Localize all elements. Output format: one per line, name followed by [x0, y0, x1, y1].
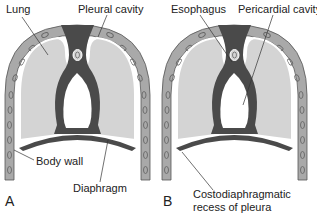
- leader-diaphragm: [100, 140, 108, 182]
- label-costodiaphragmatic-line1: Costodiaphragmatic: [193, 188, 291, 200]
- label-diaphragm: Diaphragm: [73, 182, 127, 194]
- leader-costodiaphragmatic-recess: [182, 152, 213, 190]
- panel-b-thorax: [162, 25, 307, 180]
- thoracic-cavity-diagram: [0, 0, 317, 217]
- label-esophagus: Esophagus: [171, 3, 226, 15]
- panel-letter-a: A: [5, 193, 14, 209]
- label-pleural-cavity: Pleural cavity: [78, 3, 143, 15]
- label-lung: Lung: [6, 3, 30, 15]
- label-pericardial-cavity: Pericardial cavity: [238, 3, 317, 15]
- panel-letter-b: B: [163, 193, 172, 209]
- label-body-wall: Body wall: [36, 155, 83, 167]
- label-costodiaphragmatic-line2: recess of pleura: [193, 201, 271, 213]
- leader-body-wall: [14, 150, 34, 160]
